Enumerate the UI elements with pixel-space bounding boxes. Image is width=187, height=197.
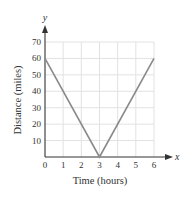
y-axis-title: Distance (miles) (12, 65, 24, 135)
y-tick-labels: 10203040506070 (32, 37, 42, 146)
x-tick-label: 0 (43, 160, 48, 170)
y-tick-label: 30 (32, 103, 42, 113)
x-tick-label: 2 (79, 160, 84, 170)
x-axis-variable: x (174, 151, 180, 162)
y-tick-label: 20 (32, 119, 42, 129)
y-axis-arrow-icon (42, 25, 48, 33)
x-tick-label: 5 (134, 160, 139, 170)
distance-time-chart: 0123456 10203040506070 Time (hours) Dist… (0, 0, 187, 197)
y-tick-label: 70 (32, 37, 42, 47)
x-tick-label: 1 (61, 160, 66, 170)
x-axis-title: Time (hours) (73, 175, 128, 187)
x-tick-labels: 0123456 (43, 160, 157, 170)
y-tick-label: 60 (32, 53, 42, 63)
x-axis-arrow-icon (165, 154, 173, 160)
x-tick-label: 4 (115, 160, 120, 170)
y-axis-variable: y (42, 12, 48, 23)
grid-lines (45, 42, 154, 157)
x-tick-label: 6 (152, 160, 157, 170)
y-tick-label: 50 (32, 70, 42, 80)
y-tick-label: 40 (32, 86, 42, 96)
y-tick-label: 10 (32, 136, 42, 146)
axes (42, 25, 173, 160)
x-tick-label: 3 (97, 160, 102, 170)
